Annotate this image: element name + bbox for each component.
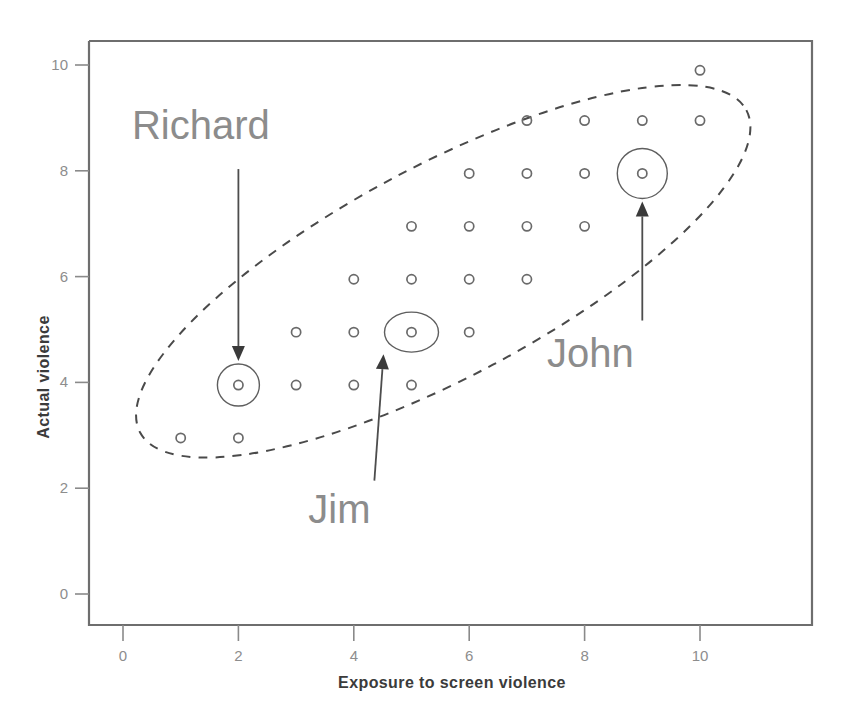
y-tick-label: 10 bbox=[51, 56, 68, 73]
x-axis-ticks: 0246810 bbox=[119, 625, 709, 664]
callout-arrow-richard bbox=[232, 169, 245, 361]
data-point bbox=[407, 328, 416, 337]
data-point bbox=[292, 328, 301, 337]
data-point bbox=[234, 380, 243, 389]
envelope-outline bbox=[90, 17, 796, 526]
data-point bbox=[638, 116, 647, 125]
annotation-label-jim: Jim bbox=[308, 487, 370, 531]
callout-arrowhead bbox=[636, 201, 649, 216]
scatter-plot-canvas: 0246810 0246810 Actual violence Exposure… bbox=[0, 0, 842, 716]
callout-arrowhead bbox=[232, 346, 245, 361]
annotation-label-richard: Richard bbox=[132, 103, 270, 147]
dashed-envelope-ellipse bbox=[90, 17, 796, 526]
data-point bbox=[234, 433, 243, 442]
data-point bbox=[522, 275, 531, 284]
data-point bbox=[465, 169, 474, 178]
y-tick-label: 0 bbox=[60, 585, 68, 602]
data-point bbox=[580, 169, 589, 178]
data-point bbox=[176, 433, 185, 442]
data-point bbox=[580, 222, 589, 231]
data-point bbox=[465, 328, 474, 337]
data-point bbox=[638, 169, 647, 178]
data-point bbox=[407, 222, 416, 231]
highlight-ring-jim bbox=[385, 312, 439, 352]
scatter-plot-figure: 0246810 0246810 Actual violence Exposure… bbox=[0, 0, 842, 716]
data-point bbox=[465, 222, 474, 231]
x-tick-label: 0 bbox=[119, 647, 127, 664]
highlight-ring-richard bbox=[217, 364, 259, 406]
data-point bbox=[407, 275, 416, 284]
y-axis-ticks: 0246810 bbox=[51, 56, 89, 602]
callout-arrow-jim bbox=[374, 354, 389, 480]
data-point bbox=[349, 380, 358, 389]
data-point bbox=[292, 380, 301, 389]
highlight-ring-john bbox=[617, 148, 667, 198]
annotation-label-john: John bbox=[547, 331, 634, 375]
x-tick-label: 4 bbox=[350, 647, 358, 664]
callout-arrowhead bbox=[376, 354, 389, 369]
data-point bbox=[695, 66, 704, 75]
x-tick-label: 10 bbox=[692, 647, 709, 664]
callout-shaft bbox=[374, 369, 382, 480]
data-point bbox=[349, 328, 358, 337]
data-point bbox=[349, 275, 358, 284]
data-point bbox=[522, 169, 531, 178]
data-point bbox=[465, 275, 474, 284]
y-axis-title: Actual violence bbox=[35, 315, 52, 438]
x-tick-label: 8 bbox=[580, 647, 588, 664]
x-axis-title: Exposure to screen violence bbox=[338, 674, 566, 691]
callout-arrow-group bbox=[232, 169, 649, 481]
x-tick-label: 2 bbox=[234, 647, 242, 664]
data-point bbox=[695, 116, 704, 125]
y-tick-label: 4 bbox=[60, 373, 68, 390]
y-tick-label: 8 bbox=[60, 162, 68, 179]
data-point bbox=[522, 222, 531, 231]
callout-arrow-john bbox=[636, 201, 649, 320]
data-point bbox=[407, 380, 416, 389]
data-point bbox=[580, 116, 589, 125]
y-tick-label: 2 bbox=[60, 479, 68, 496]
y-tick-label: 6 bbox=[60, 268, 68, 285]
x-tick-label: 6 bbox=[465, 647, 473, 664]
